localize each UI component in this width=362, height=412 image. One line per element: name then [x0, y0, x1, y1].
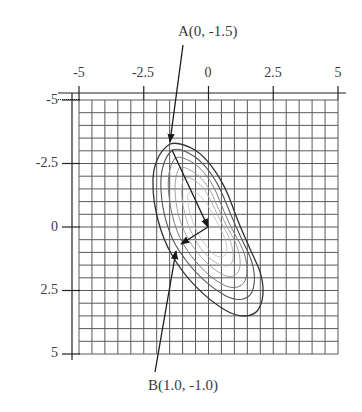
path-segment-2 — [181, 227, 208, 244]
contour-level-4 — [175, 167, 240, 276]
y-tick-label: -2.5 — [18, 156, 58, 170]
y-tick-label: 5 — [18, 346, 58, 360]
x-tick-label: 2.5 — [264, 66, 282, 80]
x-tick-label: 0 — [205, 66, 212, 80]
y-tick-label: 2.5 — [18, 283, 58, 297]
y-axis-ticks — [62, 100, 80, 354]
point-a-label: A(0, -1.5) — [178, 24, 238, 38]
point-b-label: B(1.0, -1.0) — [148, 378, 218, 392]
contour-figure: -5 -2.5 0 2.5 5 -5 -2.5 0 2.5 5 A(0, -1.… — [0, 0, 362, 412]
x-tick-label: 5 — [335, 66, 342, 80]
x-tick-label: -2.5 — [132, 66, 154, 80]
grid-lines — [79, 100, 338, 354]
y-tick-label: 0 — [18, 220, 58, 234]
y-tick-label: -5 — [18, 93, 58, 107]
x-tick-label: -5 — [73, 66, 85, 80]
